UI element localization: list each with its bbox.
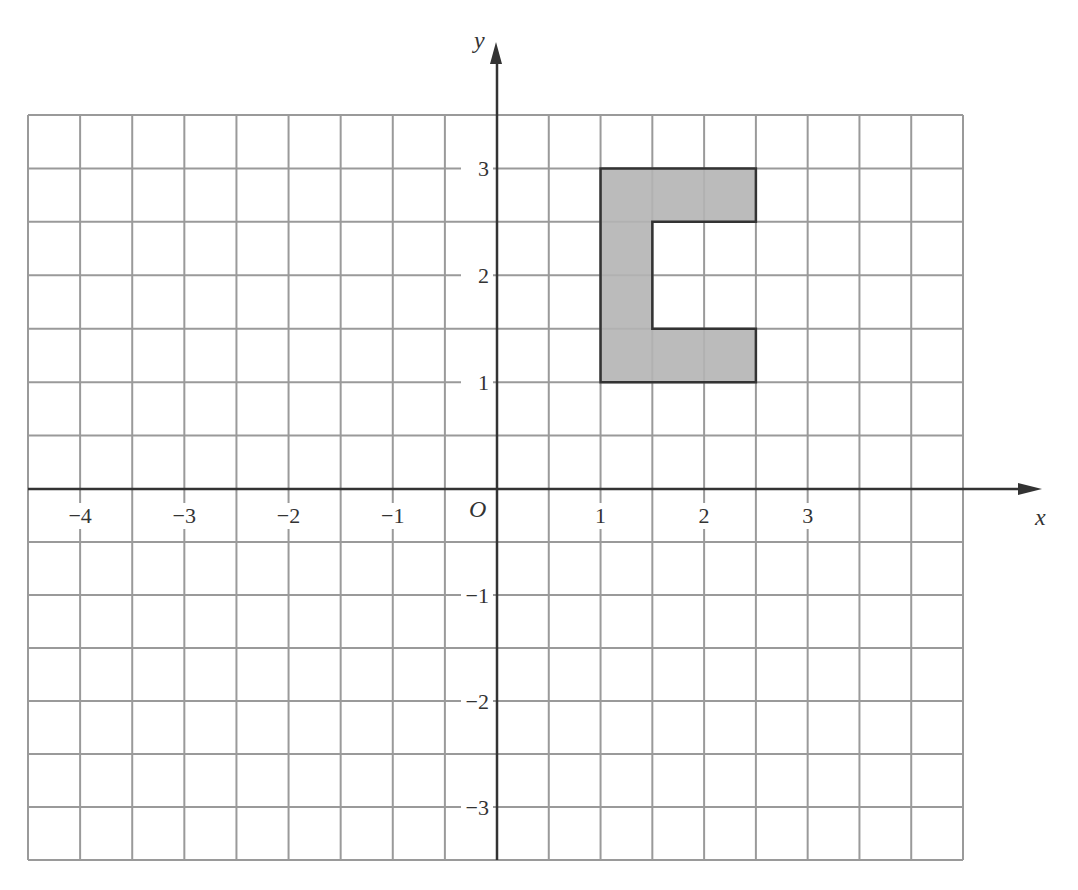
y-axis-label: y [472, 27, 485, 53]
x-tick-label: 1 [595, 503, 606, 528]
origin-label: O [469, 496, 486, 522]
x-axis-label: x [1034, 504, 1046, 530]
axes [28, 42, 1042, 860]
y-tick-label: −2 [466, 689, 489, 714]
coordinate-plane: −4−3−2−1123321−1−2−3 x y O [0, 0, 1078, 890]
grid-lines [28, 115, 963, 860]
y-tick-label: −1 [466, 583, 489, 608]
y-tick-label: 2 [478, 263, 489, 288]
coordinate-grid-figure: −4−3−2−1123321−1−2−3 x y O [0, 0, 1078, 890]
y-axis-arrow-icon [490, 42, 502, 64]
x-tick-label: −4 [68, 503, 91, 528]
y-tick-label: 3 [478, 156, 489, 181]
x-tick-label: 3 [802, 503, 813, 528]
y-tick-label: −3 [466, 795, 489, 820]
x-tick-label: −2 [277, 503, 300, 528]
x-tick-label: −3 [173, 503, 196, 528]
x-tick-label: 2 [699, 503, 710, 528]
y-tick-label: 1 [478, 370, 489, 395]
x-tick-label: −1 [381, 503, 404, 528]
x-axis-arrow-icon [1018, 483, 1042, 495]
